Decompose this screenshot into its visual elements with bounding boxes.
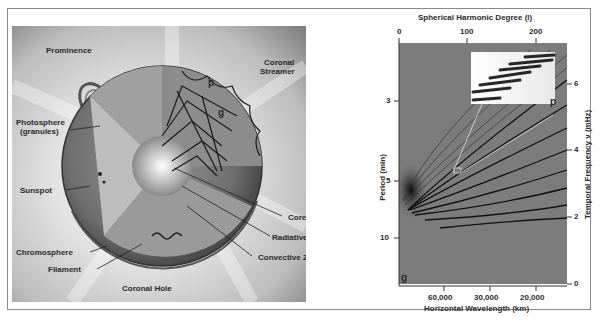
right-tick-6: 6 [574,79,578,88]
label-g-mode: g [218,108,224,117]
label-coronal-streamer-2: Streamer [260,67,295,76]
bottom-tick-60000: 60,000 [428,293,452,302]
left-tick-5: 5 [386,176,390,185]
right-axis-label: Temporal Frequency ν (mHz) [583,110,592,220]
bottom-tick-20000: 20,000 [520,293,544,302]
chart-plot [370,10,590,310]
label-prominence: Prominence [46,46,92,55]
left-tick-3: 3 [386,96,390,105]
bottom-tick-30000: 30,000 [474,293,498,302]
right-tick-2: 2 [574,212,578,221]
left-axis-label: Period (min) [378,148,387,208]
bottom-axis-label: Horizontal Wavelength (km) [424,304,529,313]
label-convective-zone: Convective Zone [258,253,306,262]
label-sunspot: Sunspot [20,186,52,195]
sun-cutaway-illustration: Prominence Coronal Streamer Photosphere … [12,26,306,302]
g-label: g [401,272,407,283]
label-coronal-streamer-1: Coronal [264,58,294,67]
label-coronal-hole: Coronal Hole [122,284,172,293]
label-p-mode: p [208,78,214,87]
label-radiative-zone: Radiative Zone [272,233,306,242]
label-core: Core [288,213,306,222]
label-chromosphere: Chromosphere [16,248,73,257]
l-nu-diagram: Spherical Harmonic Degree (l) 0 100 200 [370,10,590,310]
inset-p-label: p [550,96,556,107]
label-photosphere-1: Photosphere [16,118,65,127]
label-photosphere-2: (granules) [20,127,59,136]
right-tick-4: 4 [574,145,578,154]
label-filament: Filament [48,265,81,274]
right-tick-0: 0 [574,279,578,288]
left-tick-10: 10 [380,233,389,242]
